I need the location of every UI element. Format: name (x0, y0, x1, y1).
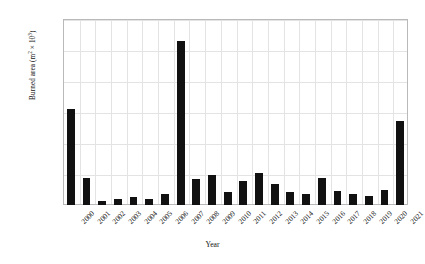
bar-2005 (145, 199, 153, 206)
bar-2007 (177, 41, 185, 205)
x-axis-tick-label: 2009 (220, 209, 237, 226)
bar-column (381, 19, 389, 205)
bar-2014 (286, 192, 294, 205)
x-axis-tick-label: 2021 (408, 209, 425, 226)
bar-2010 (224, 192, 232, 205)
bar-2011 (239, 181, 247, 205)
bar-column (161, 19, 169, 205)
x-axis-tick-label: 2004 (142, 209, 159, 226)
bar-column (255, 19, 263, 205)
bar-2008 (192, 179, 200, 205)
bar-column (302, 19, 310, 205)
y-axis-title-unit-exp: 2 (27, 51, 33, 54)
bar-2017 (334, 191, 342, 205)
bar-2012 (255, 173, 263, 205)
bar-column (177, 19, 185, 205)
x-axis-tick-label: 2000 (79, 209, 96, 226)
bar-column (145, 19, 153, 205)
x-axis-tick-label: 2010 (236, 209, 253, 226)
x-axis-tick-label: 2002 (111, 209, 128, 226)
y-axis-title-scale-exp: 3 (27, 33, 33, 36)
bar-column (114, 19, 122, 205)
y-axis-title: Burned area (m2 × 103) (27, 0, 37, 145)
x-axis-tick-label: 2017 (346, 209, 363, 226)
bar-column (192, 19, 200, 205)
x-axis-tick-label: 2011 (252, 209, 269, 226)
bar-column (365, 19, 373, 205)
x-axis-tick-label: 2001 (95, 209, 112, 226)
y-axis-title-text: Burned area (m (29, 54, 37, 100)
bar-2013 (271, 184, 279, 205)
x-axis-tick-label: 2006 (173, 209, 190, 226)
bar-column (271, 19, 279, 205)
x-axis-title: Year (0, 240, 425, 249)
bar-2002 (98, 201, 106, 205)
bar-column (286, 19, 294, 205)
x-axis-tick-label: 2008 (205, 209, 222, 226)
bar-2016 (318, 178, 326, 205)
x-axis-tick-label: 2018 (361, 209, 378, 226)
x-axis-tick-label: 2007 (189, 209, 206, 226)
bar-2000 (67, 109, 75, 205)
bar-column (67, 19, 75, 205)
bar-2019 (365, 196, 373, 205)
x-axis-tick-label: 2012 (267, 209, 284, 226)
bar-column (349, 19, 357, 205)
y-axis-title-tail: × 10 (29, 36, 37, 51)
bar-column (208, 19, 216, 205)
bar-column (130, 19, 138, 205)
bar-column (334, 19, 342, 205)
x-axis-tick-label: 2013 (283, 209, 300, 226)
x-axis-tick-label: 2016 (330, 209, 347, 226)
bar-column (98, 19, 106, 205)
bar-2004 (130, 197, 138, 205)
bar-2009 (208, 175, 216, 205)
x-axis-tick-label: 2005 (158, 209, 175, 226)
bar-2006 (161, 194, 169, 205)
x-axis-tick-label: 2015 (314, 209, 331, 226)
bar-chart-figure: Burned area (m2 × 103) Year 0500.0001.00… (0, 0, 425, 264)
bar-2021 (396, 121, 404, 205)
bar-2020 (381, 190, 389, 205)
bar-2001 (83, 178, 91, 205)
x-axis-tick-label: 2020 (393, 209, 410, 226)
bar-2003 (114, 199, 122, 205)
x-axis-tick-label: 2019 (377, 209, 394, 226)
x-axis-tick-label: 2014 (299, 209, 316, 226)
bar-column (239, 19, 247, 205)
bar-2018 (349, 194, 357, 205)
bar-2015 (302, 194, 310, 205)
bar-column (224, 19, 232, 205)
x-axis-tick-label: 2003 (126, 209, 143, 226)
y-axis-title-close: ) (29, 31, 37, 34)
bar-column (396, 19, 404, 205)
bars-layer (63, 19, 408, 205)
bar-column (83, 19, 91, 205)
bar-column (318, 19, 326, 205)
